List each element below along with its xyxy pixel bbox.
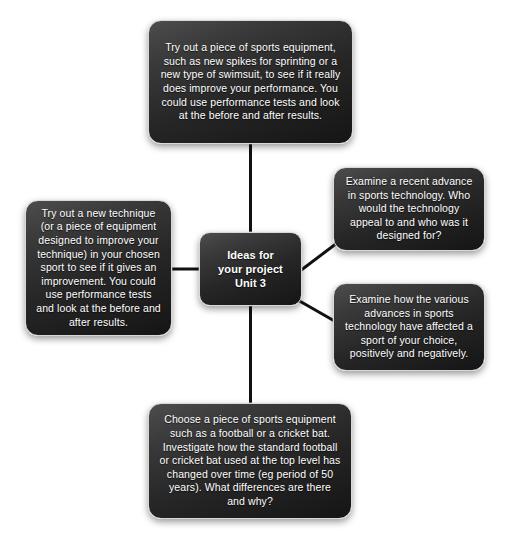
idea-node-left-text: Try out a new technique (or a piece of e… [36, 207, 161, 330]
idea-node-right-upper[interactable]: Examine a recent advance in sports techn… [333, 167, 485, 251]
central-topic-text: Ideas for your project Unit 3 [210, 248, 291, 291]
idea-node-bottom[interactable]: Choose a piece of sports equipment such … [148, 403, 352, 519]
idea-node-bottom-text: Choose a piece of sports equipment such … [159, 413, 341, 508]
diagram-canvas: Try out a piece of sports equipment, suc… [0, 0, 505, 538]
idea-node-right-lower-text: Examine how the various advances in spor… [344, 293, 474, 361]
central-topic-line-1: Ideas for [227, 249, 274, 261]
idea-node-right-upper-text: Examine a recent advance in sports techn… [344, 175, 474, 243]
idea-node-top[interactable]: Try out a piece of sports equipment, suc… [148, 20, 353, 144]
central-topic-line-3: Unit 3 [235, 277, 266, 289]
central-topic-node[interactable]: Ideas for your project Unit 3 [199, 232, 302, 306]
idea-node-right-lower[interactable]: Examine how the various advances in spor… [333, 283, 485, 371]
central-topic-line-2: your project [218, 263, 283, 275]
idea-node-left[interactable]: Try out a new technique (or a piece of e… [25, 200, 172, 336]
idea-node-top-text: Try out a piece of sports equipment, suc… [159, 41, 342, 123]
